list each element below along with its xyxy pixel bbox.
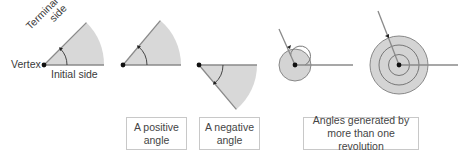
labeled-angle-figure xyxy=(42,23,104,68)
caption-line2: angle xyxy=(134,134,179,147)
sector-fill xyxy=(44,23,104,65)
vertex-dot xyxy=(42,63,47,68)
multiple-revolution-angle-figure xyxy=(370,11,458,94)
positive-angle-figure xyxy=(121,21,181,68)
one-revolution-angle-figure xyxy=(279,29,353,81)
vertex-dot xyxy=(121,63,126,68)
negative-angle-figure xyxy=(197,63,257,110)
vertex-dot xyxy=(293,63,298,68)
caption-line1: Angles generated by xyxy=(304,114,418,127)
sector-fill xyxy=(123,21,181,65)
vertex-dot xyxy=(397,63,402,68)
caption-line1: A positive xyxy=(134,121,179,134)
caption-positive-angle: A positive angle xyxy=(126,117,187,150)
caption-line1: A negative xyxy=(205,121,254,134)
initial-side-label: Initial side xyxy=(51,68,98,80)
caption-negative-angle: A negative angle xyxy=(199,117,260,150)
caption-multiple-revolutions: Angles generated by more than one revolu… xyxy=(303,117,419,150)
caption-line2: more than one revolution xyxy=(304,127,418,153)
vertex-dot xyxy=(197,63,202,68)
vertex-label: Vertex xyxy=(11,58,41,70)
sector-fill xyxy=(199,65,257,109)
caption-line2: angle xyxy=(205,134,254,147)
